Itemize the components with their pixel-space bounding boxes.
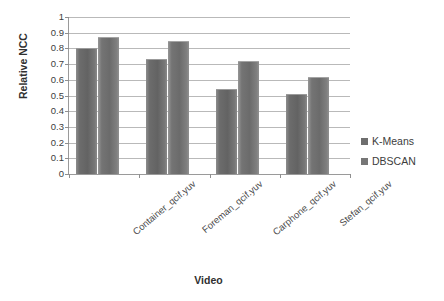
x-axis-tick-label: Container_qcif.yuv (130, 178, 197, 237)
y-axis-tick-label: 0.3 (34, 122, 64, 132)
legend-item-label: K-Means (372, 136, 414, 147)
x-axis-tick-label: Foreman_qcif.yuv (199, 178, 264, 235)
bar-k-means[interactable] (146, 59, 167, 174)
y-axis-tick-label: 0.9 (34, 28, 64, 38)
legend-item[interactable]: DBSCAN (361, 156, 441, 167)
bars-layer (69, 17, 350, 174)
bar-dbscan[interactable] (168, 41, 189, 174)
legend-swatch-icon (361, 138, 368, 145)
bar-group (69, 17, 139, 174)
y-axis-tick-label: 0.7 (34, 59, 64, 69)
legend-item-label: DBSCAN (372, 156, 416, 167)
bar-dbscan[interactable] (238, 61, 259, 174)
x-axis-tick-label: Stefan_qcif.yuv (337, 178, 394, 228)
chart-legend: K-MeansDBSCAN (361, 136, 441, 176)
bar-k-means[interactable] (216, 89, 237, 174)
y-axis-tick-label: 0.8 (34, 44, 64, 54)
bar-group (139, 17, 209, 174)
y-axis-tick-label: 0.1 (34, 154, 64, 164)
y-axis-tick-label: 1 (34, 12, 64, 22)
x-axis-tick-labels: Container_qcif.yuvForeman_qcif.yuvCarpho… (68, 178, 349, 256)
x-axis-tick-label: Carphone_qcif.yuv (271, 178, 339, 237)
bar-dbscan[interactable] (308, 77, 329, 174)
x-tick-mark (350, 174, 351, 178)
bar-group (210, 17, 280, 174)
bar-k-means[interactable] (286, 94, 307, 174)
bar-chart: Relative NCC 10.90.80.70.60.50.40.30.20.… (0, 0, 444, 301)
y-axis-tick-label: 0.5 (34, 91, 64, 101)
y-axis-tick-label: 0.2 (34, 138, 64, 148)
y-axis-tick-labels: 10.90.80.70.60.50.40.30.20.10 (34, 17, 64, 174)
legend-swatch-icon (361, 158, 368, 165)
y-axis-tick-label: 0 (34, 169, 64, 179)
y-axis-tick-label: 0.4 (34, 106, 64, 116)
bar-k-means[interactable] (76, 48, 97, 174)
y-axis-title: Relative NCC (17, 21, 29, 111)
plot-area (68, 17, 350, 175)
x-axis-title: Video (68, 274, 349, 286)
bar-dbscan[interactable] (98, 37, 119, 174)
bar-group (280, 17, 350, 174)
legend-item[interactable]: K-Means (361, 136, 441, 147)
y-axis-tick-label: 0.6 (34, 75, 64, 85)
